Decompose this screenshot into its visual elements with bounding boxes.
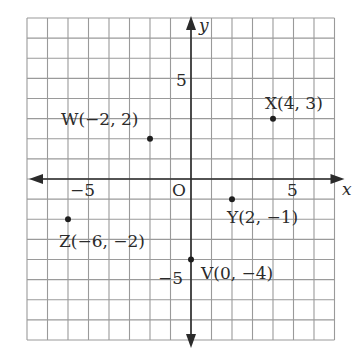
point-w-marker [147, 136, 153, 142]
grid [0, 0, 364, 353]
y-axis-down-arrow-icon [186, 334, 196, 348]
y-tick-5: 5 [176, 72, 187, 89]
point-z-marker [65, 216, 71, 222]
point-y-marker [229, 196, 235, 202]
point-x-marker [270, 116, 276, 122]
point-v-label: V(0, −4) [201, 265, 273, 282]
point-z-label: Z(−6, −2) [59, 233, 145, 250]
point-y-label: Y(2, −1) [227, 209, 298, 226]
origin-label: O [172, 182, 186, 199]
x-tick-neg5: −5 [70, 182, 95, 199]
point-v-marker [188, 257, 194, 263]
y-axis-label: y [199, 17, 209, 34]
x-axis-left-arrow-icon [29, 174, 43, 184]
y-tick-neg5: −5 [158, 270, 183, 287]
point-w-label: W(−2, 2) [61, 111, 138, 128]
x-tick-5: 5 [287, 182, 298, 199]
point-x-label: X(4, 3) [265, 95, 323, 112]
x-axis-label: x [342, 181, 352, 198]
coordinate-plane: y x O −5 5 5 −5 W(−2, 2) X(4, 3) Y(2, −1… [0, 0, 364, 353]
